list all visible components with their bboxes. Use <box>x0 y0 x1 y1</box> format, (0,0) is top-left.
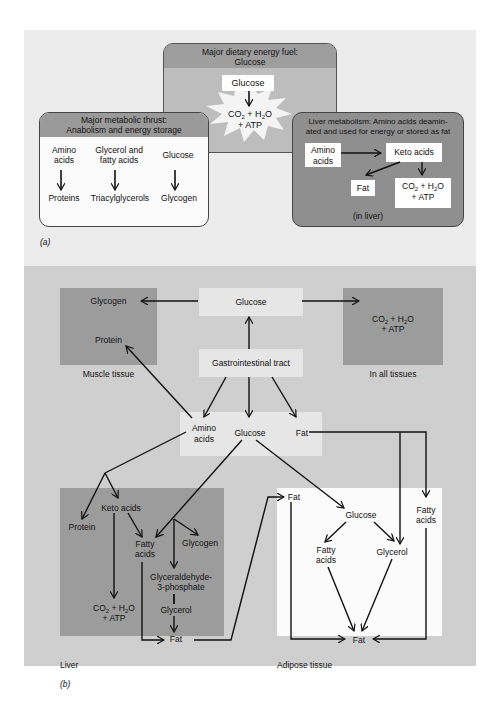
all-tissues-atp: + ATP <box>343 324 443 335</box>
liver-co2: CO2 + H2O <box>86 603 142 614</box>
liver-fat: Fat <box>166 634 186 645</box>
absorbed-fat: Fat <box>290 428 314 439</box>
adipose-caption: Adipose tissue <box>277 660 332 670</box>
glycerol-label-1: Glycerol and <box>88 145 150 156</box>
liver-atp: + ATP <box>86 613 142 624</box>
amino-line-1: Amino <box>305 145 341 156</box>
liver-glycogen: Glycogen <box>178 538 222 549</box>
amino-acids-label-2: acids <box>46 155 82 166</box>
all-tissues-co2: CO2 + H2O <box>343 314 443 325</box>
absorbed-glucose: Glucose <box>230 428 270 439</box>
glycerol-label-2: fatty acids <box>88 155 150 166</box>
amino-acids-node: Amino acids <box>305 143 341 167</box>
panel-a-caption: (a) <box>40 237 50 247</box>
co2-line-1: CO2 + H2O <box>395 181 451 192</box>
liver-title-2: ated and used for energy or stored as fa… <box>293 126 463 137</box>
liver-fatty-1: Fatty <box>130 539 160 550</box>
panel-b-caption: (b) <box>60 679 70 689</box>
liver-g3p-1: Glyceraldehyde- <box>146 572 216 583</box>
co2-h2o-node: CO2 + H2O <box>210 109 290 120</box>
adipose-fat-in: Fat <box>284 492 304 503</box>
dietary-fuel-title-2: Glucose <box>164 57 336 68</box>
liver-caption: Liver <box>60 660 78 670</box>
amino-line-2: acids <box>305 156 341 167</box>
anabolism-title-2: Anabolism and energy storage <box>40 125 208 136</box>
liver-fatty-2: acids <box>130 549 160 560</box>
atp-node: + ATP <box>210 120 290 131</box>
muscle-glycogen: Glycogen <box>60 296 157 307</box>
anabolism-box: Major metabolic thrust: Anabolism and en… <box>39 112 209 227</box>
glucose-node: Glucose <box>222 75 274 91</box>
amino-acids-label-1: Amino <box>46 145 82 156</box>
adipose-glucose: Glucose <box>336 510 386 521</box>
in-liver-label: (in liver) <box>333 211 403 222</box>
adipose-fatty-right-2: acids <box>410 515 442 526</box>
adipose-glycerol: Glycerol <box>370 547 414 558</box>
adipose-fatty-right-1: Fatty <box>410 505 442 516</box>
adipose-fatty-1: Fatty <box>310 545 342 556</box>
fat-node: Fat <box>351 180 375 196</box>
all-tissues-caption: In all tissues <box>343 369 443 380</box>
adipose-fatty-2: acids <box>310 555 342 566</box>
co2-node: CO2 + H2O + ATP <box>395 178 451 208</box>
glycogen-label: Glycogen <box>154 193 204 204</box>
proteins-label: Proteins <box>44 193 84 204</box>
liver-glycerol: Glycerol <box>154 605 198 616</box>
keto-acids-node: Keto acids <box>386 143 442 162</box>
adipose-fat-out: Fat <box>349 635 369 646</box>
co2-line-2: + ATP <box>395 192 451 203</box>
triacylglycerols-label: Triacylglycerols <box>84 193 156 204</box>
glucose-label: Glucose <box>154 150 202 161</box>
absorbed-amino-2: acids <box>186 434 222 445</box>
liver-protein: Protein <box>62 522 102 533</box>
glucose-top-label: Glucose <box>199 297 303 308</box>
liver-g3p-2: 3-phosphate <box>146 582 216 593</box>
liver-keto: Keto acids <box>96 503 146 514</box>
gi-tract-label: Gastrointestinal tract <box>199 358 303 369</box>
muscle-protein: Protein <box>60 335 157 346</box>
muscle-tissue-caption: Muscle tissue <box>60 369 157 380</box>
absorbed-amino-1: Amino <box>186 423 222 434</box>
liver-metabolism-box: Liver metabolism: Amino acids deamin- at… <box>292 112 464 227</box>
